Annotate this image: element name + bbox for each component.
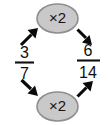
diagram-canvas: 3 7 6 14: [0, 0, 109, 125]
left-fraction: 3 7: [15, 44, 34, 82]
arrow-denominator-in: [22, 80, 39, 96]
arrow-denominator-out: [78, 81, 94, 97]
operation-bubble-top[interactable]: ×2: [37, 4, 78, 33]
right-fraction: 6 14: [77, 42, 100, 81]
right-fraction-denominator: 14: [79, 64, 97, 81]
operation-bubble-bottom[interactable]: ×2: [37, 92, 78, 121]
left-fraction-denominator: 7: [20, 65, 29, 82]
left-fraction-numerator: 3: [20, 44, 29, 61]
arrow-numerator-in: [21, 28, 38, 45]
operation-bubble-bottom-label: ×2: [49, 97, 66, 114]
operation-bubble-top-label: ×2: [49, 9, 66, 26]
arrow-numerator-out: [78, 30, 93, 46]
equivalent-fractions-diagram: 3 7 6 14: [0, 0, 109, 125]
